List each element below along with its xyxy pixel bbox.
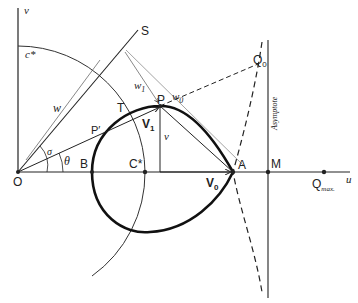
label-C-star: C* (129, 157, 143, 171)
w-dimension-line (26, 60, 100, 160)
label-V1: V1 (142, 117, 155, 133)
theta-arc (59, 153, 63, 172)
label-Qmax: Qmax. (312, 177, 335, 193)
u-axis-label: u (346, 173, 352, 185)
point-O (16, 170, 20, 174)
label-S: S (141, 24, 149, 38)
label-V0: V0 (206, 176, 219, 192)
label-w: w (53, 101, 61, 115)
line-PA (160, 106, 233, 172)
label-theta: θ (64, 154, 70, 168)
v-axis-label: v (24, 4, 29, 16)
label-v: v (164, 130, 169, 142)
label-M: M (271, 157, 281, 171)
label-Q0: Q0 (253, 53, 267, 69)
point-M (266, 170, 270, 174)
shock-polar-loop (92, 106, 233, 232)
label-P-prime: P′ (91, 124, 100, 136)
arc-label-c-star: c* (25, 48, 36, 60)
hodograph-diagram: v u c* S w w1 w0 P T P′ V1 v O σ θ B C* … (0, 0, 358, 303)
point-B (90, 170, 94, 174)
label-w1: w1 (134, 79, 145, 94)
label-P: P (157, 93, 165, 107)
asymptote-label: Asymptote (270, 96, 279, 131)
label-O: O (13, 175, 22, 189)
point-A (231, 170, 235, 174)
point-C-star (143, 170, 147, 174)
label-B: B (80, 157, 88, 171)
point-Qmax (322, 170, 326, 174)
label-T: T (117, 101, 125, 115)
label-w0: w0 (172, 90, 183, 105)
label-sigma: σ (47, 146, 53, 157)
label-A: A (238, 158, 246, 172)
